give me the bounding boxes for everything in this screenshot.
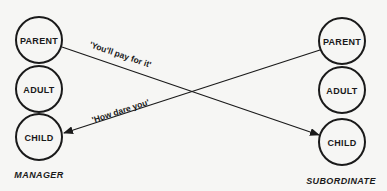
subordinate-child-label: CHILD (328, 138, 357, 148)
subordinate-parent-label: PARENT (323, 37, 361, 47)
transaction-how-dare-you: 'How dare you' (64, 50, 320, 133)
manager-caption: MANAGER (14, 170, 63, 180)
subordinate-caption: SUBORDINATE (306, 176, 376, 186)
message-how-dare-you: 'How dare you' (91, 97, 151, 125)
subordinate-child-state: CHILD (319, 119, 365, 165)
manager-child-label: CHILD (25, 133, 54, 143)
manager-child-state: CHILD (16, 114, 62, 160)
transaction-diagram: PARENT ADULT CHILD MANAGER PARENT ADULT … (0, 0, 387, 191)
subordinate-parent-state: PARENT (319, 18, 365, 64)
manager-parent-label: PARENT (20, 36, 58, 46)
manager-parent-state: PARENT (16, 17, 62, 63)
subordinate-ego-states: PARENT ADULT CHILD SUBORDINATE (306, 18, 376, 186)
message-you-will-pay: 'You'll pay for it' (88, 39, 152, 69)
subordinate-adult-state: ADULT (319, 67, 365, 113)
manager-adult-state: ADULT (16, 66, 62, 112)
manager-adult-label: ADULT (23, 85, 55, 95)
manager-ego-states: PARENT ADULT CHILD MANAGER (14, 17, 63, 180)
subordinate-adult-label: ADULT (326, 86, 358, 96)
